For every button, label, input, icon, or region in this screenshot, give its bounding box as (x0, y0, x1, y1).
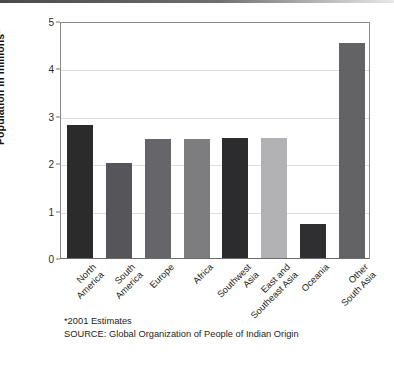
bar[interactable] (339, 43, 365, 258)
bar[interactable] (145, 139, 171, 258)
plot-area (60, 22, 370, 259)
bar[interactable] (106, 163, 132, 258)
y-tick-label: 3 (32, 111, 54, 122)
bar-fill (145, 139, 171, 258)
y-axis-title: Population in millions* (0, 0, 6, 145)
bar-fill (261, 138, 287, 258)
top-divider-rule (0, 0, 394, 3)
bar-fill (300, 224, 326, 258)
y-tick-label: 4 (32, 64, 54, 75)
y-tick-label: 5 (32, 17, 54, 28)
y-tick-label: 1 (32, 206, 54, 217)
bar[interactable] (261, 138, 287, 258)
y-tick-label: 2 (32, 159, 54, 170)
bar[interactable] (184, 139, 210, 258)
bar-chart-figure: Population in millions* 012345 North Ame… (0, 0, 394, 367)
bar[interactable] (222, 138, 248, 258)
bar-fill (67, 125, 93, 258)
bar-series (61, 23, 369, 258)
source-note: SOURCE: Global Organization of People of… (64, 328, 384, 341)
bar-fill (222, 138, 248, 258)
estimates-note: *2001 Estimates (64, 315, 384, 328)
bar-fill (184, 139, 210, 258)
bar-fill (106, 163, 132, 258)
bar[interactable] (300, 224, 326, 258)
footnote-block: *2001 Estimates SOURCE: Global Organizat… (64, 315, 384, 341)
bar[interactable] (67, 125, 93, 258)
y-tick-label: 0 (32, 254, 54, 265)
bar-fill (339, 43, 365, 258)
